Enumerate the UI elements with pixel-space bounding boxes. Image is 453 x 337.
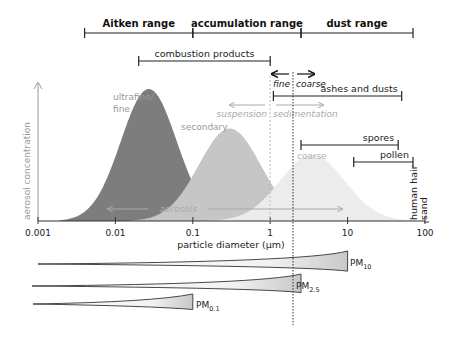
- x-tick-label: 0.01: [105, 228, 125, 238]
- x-axis-label: particle diameter (µm): [177, 239, 285, 250]
- pm-wedge: [32, 274, 301, 293]
- pm01-label: PM0.1: [196, 300, 220, 313]
- x-tick-label: 0.001: [25, 228, 51, 238]
- suspension-label: suspension: [217, 109, 268, 119]
- mode-label-secondary: secondary: [181, 122, 228, 132]
- size-ranges: Aitken rangeaccumulation rangedust range: [85, 18, 413, 38]
- aerosol-size-diagram: 0.0010.010.1110100 aerosol concentration…: [0, 0, 453, 337]
- x-tick-label: 0.1: [186, 228, 200, 238]
- range-label: accumulation range: [191, 18, 303, 29]
- x-tick-label: 1: [267, 228, 273, 238]
- source-label: pollen: [380, 149, 409, 160]
- mode-label-coarse: coarse: [297, 151, 327, 161]
- source-label: spores: [363, 132, 394, 143]
- sedimentation-label: sedimentation: [273, 109, 338, 119]
- range-label: dust range: [326, 18, 387, 29]
- y-axis-label: aerosol concentration: [22, 122, 32, 220]
- pm-wedge: [33, 294, 193, 310]
- x-tick-label: 10: [342, 228, 354, 238]
- pm10-label: PM10: [350, 258, 371, 271]
- range-label: Aitken range: [102, 18, 175, 29]
- x-tick-label: 100: [416, 228, 433, 238]
- source-label: ashes and dusts: [321, 83, 398, 94]
- fine-label: fine: [273, 79, 291, 89]
- sand-label: sand: [418, 197, 429, 220]
- pm-wedge: [38, 251, 348, 271]
- source-label: combustion products: [154, 48, 254, 59]
- aerosols-label: aerosols: [159, 204, 197, 214]
- source-ranges: combustion productsashes and dustsspores…: [139, 48, 413, 167]
- coarse-label: coarse: [296, 79, 326, 89]
